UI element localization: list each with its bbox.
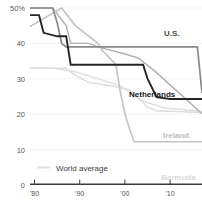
y-axis-labels: 50% 40 30 20 10 0 <box>10 4 25 190</box>
y-tick-label-0: 0 <box>21 181 25 190</box>
x-tick-label-2010: '10 <box>166 190 175 197</box>
series-label-ireland: Ireland <box>163 131 189 140</box>
world-average-legend: World average <box>37 164 108 173</box>
y-tick-label-10: 10 <box>17 146 25 155</box>
series-label-us: U.S. <box>164 29 180 38</box>
y-tick-label-30: 30 <box>17 75 25 84</box>
x-tick-label-1980: '80 <box>30 190 39 197</box>
y-tick-label-50: 50% <box>10 4 25 13</box>
chart-svg: 50% 40 30 20 10 0 '80 '90 '00 <box>0 0 202 202</box>
x-axis: '80 '90 '00 '10 <box>30 180 202 197</box>
world-average-legend-label: World average <box>56 164 108 173</box>
series-label-netherlands: Netherlands <box>129 90 176 99</box>
x-tick-label-2000: '00 <box>120 190 129 197</box>
y-tick-label-40: 40 <box>17 39 25 48</box>
series-line-unlabeled-mid-1 <box>30 8 202 114</box>
series-line-us <box>30 8 202 93</box>
series-labels: U.S. Netherlands Ireland Bermuda <box>129 29 196 182</box>
series-label-bermuda: Bermuda <box>161 173 196 182</box>
x-tick-label-1990: '90 <box>75 190 84 197</box>
background-series-group <box>30 8 202 114</box>
y-tick-label-20: 20 <box>17 110 25 119</box>
corporate-tax-rate-line-chart: 50% 40 30 20 10 0 '80 '90 '00 <box>0 0 202 202</box>
